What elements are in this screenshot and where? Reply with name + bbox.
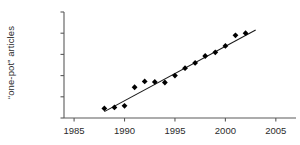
trend-line-segment	[104, 30, 255, 112]
axes	[61, 12, 297, 122]
chart-canvas	[22, 0, 300, 145]
data-points	[101, 30, 248, 111]
data-point-marker	[182, 65, 188, 71]
data-point-marker	[132, 84, 138, 90]
plot-area: 02004006008001000 19851990199520002005	[22, 0, 300, 145]
data-point-marker	[192, 60, 198, 66]
data-point-marker	[122, 103, 128, 109]
chart-figure: “one-pot” articles 02004006008001000 198…	[0, 0, 300, 145]
data-point-marker	[152, 79, 158, 85]
y-axis-label: “one-pot” articles	[0, 0, 22, 125]
y-axis-label-text: “one-pot” articles	[6, 26, 17, 99]
data-point-marker	[233, 32, 239, 38]
trend-line	[104, 30, 255, 112]
data-point-marker	[172, 73, 178, 79]
data-point-marker	[243, 30, 249, 36]
data-point-marker	[142, 79, 148, 85]
